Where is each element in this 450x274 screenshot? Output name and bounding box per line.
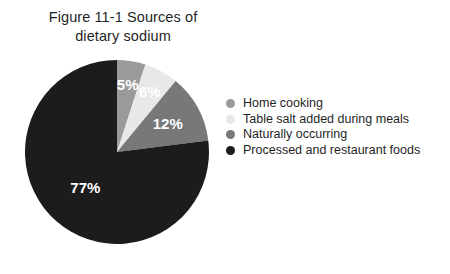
pie-chart-svg: 5%6%12%77% <box>25 56 209 250</box>
pie-slice-label: 77% <box>70 179 100 196</box>
legend-item-label: Naturally occurring <box>243 127 347 142</box>
legend-swatch-icon <box>226 115 235 124</box>
page-title: Figure 11-1 Sources of dietary sodium <box>18 8 228 46</box>
chart-legend: Home cooking Table salt added during mea… <box>226 96 446 158</box>
legend-swatch-icon <box>226 130 235 139</box>
legend-item[interactable]: Home cooking <box>226 96 446 111</box>
pie-slice-label: 5% <box>117 76 139 93</box>
pie-slice-label: 12% <box>153 115 183 132</box>
legend-item-label: Processed and restaurant foods <box>243 143 420 158</box>
pie-chart: 5%6%12%77% <box>25 56 209 250</box>
legend-item[interactable]: Naturally occurring <box>226 127 446 142</box>
legend-item[interactable]: Processed and restaurant foods <box>226 143 446 158</box>
figure-container: Figure 11-1 Sources of dietary sodium 5%… <box>0 0 450 274</box>
legend-swatch-icon <box>226 146 235 155</box>
legend-swatch-icon <box>226 99 235 108</box>
legend-item[interactable]: Table salt added during meals <box>226 112 446 127</box>
legend-item-label: Table salt added during meals <box>243 112 409 127</box>
pie-slice-label: 6% <box>139 83 161 100</box>
legend-item-label: Home cooking <box>243 96 323 111</box>
